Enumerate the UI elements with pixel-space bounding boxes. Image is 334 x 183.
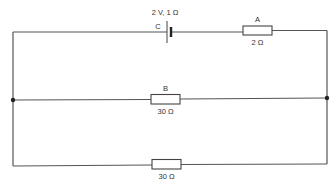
resistor-a-value: 2 Ω <box>252 38 264 47</box>
resistor-b-body <box>151 95 180 105</box>
junction-left <box>11 98 15 102</box>
middle-branch: B 30 Ω <box>13 84 327 116</box>
wire-bottom-right <box>181 164 327 165</box>
resistor-a-label: A <box>255 15 260 24</box>
junction-right <box>325 96 329 100</box>
wire-bottom-left <box>13 165 152 166</box>
resistor-b-value: 30 Ω <box>157 107 173 116</box>
resistor-a-body <box>243 26 272 35</box>
wire-middle-left <box>13 100 151 101</box>
battery-rating-label: 2 V, 1 Ω <box>152 8 179 17</box>
resistor-b-label: B <box>163 84 168 93</box>
battery-id-label: C <box>155 22 161 31</box>
circuit-diagram: 2 V, 1 Ω C A 2 Ω B 30 Ω 30 Ω <box>0 0 334 183</box>
resistor-a: A 2 Ω <box>243 15 272 47</box>
battery-c: 2 V, 1 Ω C <box>152 8 179 43</box>
bottom-branch: 30 Ω <box>13 160 327 182</box>
resistor-bottom-value: 30 Ω <box>158 172 174 181</box>
resistor-bottom-body <box>152 160 181 170</box>
wire-middle-right <box>180 98 327 99</box>
